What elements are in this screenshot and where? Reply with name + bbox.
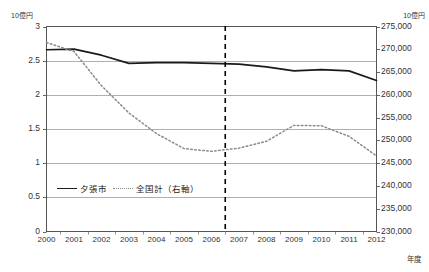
- plot-area: [0, 0, 429, 272]
- gridlines: [47, 62, 377, 198]
- legend-swatch-solid-icon: [57, 188, 77, 189]
- x-axis-title: 年度: [407, 253, 421, 264]
- line-chart: 10億円 10億円 00.511.522.53 230,000235,00024…: [0, 0, 429, 272]
- series-line-yubari: [47, 49, 377, 80]
- plot-frame: [47, 27, 377, 232]
- legend-item-national: 全国計（右軸）: [113, 182, 199, 194]
- legend-label-national: 全国計（右軸）: [136, 182, 199, 194]
- series-line-national: [47, 42, 377, 155]
- legend-swatch-dotted-icon: [113, 188, 133, 189]
- chart-legend: 夕張市 全国計（右軸）: [57, 182, 199, 194]
- legend-label-yubari: 夕張市: [80, 182, 107, 194]
- legend-item-yubari: 夕張市: [57, 182, 107, 194]
- series-layer: [47, 42, 377, 155]
